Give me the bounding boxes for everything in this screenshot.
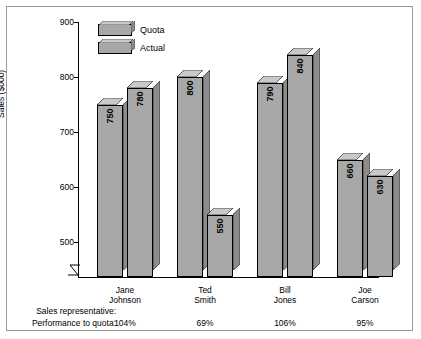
category-line1: Joe xyxy=(330,285,400,295)
y-tick-mark-700 xyxy=(74,132,78,133)
bar-quota-joe: 660 xyxy=(337,160,363,278)
y-tick-500: 500 xyxy=(44,238,74,247)
bar-value-label: 790 xyxy=(265,86,275,101)
category-line2: Smith xyxy=(170,295,240,305)
category-line1: Bill xyxy=(250,285,320,295)
category-line2: Carson xyxy=(330,295,400,305)
category-label-ted: Ted Smith xyxy=(170,285,240,305)
legend-item-actual: Actual xyxy=(98,42,165,54)
legend-swatch-side xyxy=(131,21,135,33)
bar-face xyxy=(177,77,203,277)
legend-item-quota: Quota xyxy=(98,24,165,36)
x-axis-line xyxy=(78,277,379,278)
bar-value-label: 780 xyxy=(135,91,145,106)
chart-page: Sales ($000) 900 800 700 600 500 Quota xyxy=(0,0,421,339)
y-tick-mark-800 xyxy=(74,77,78,78)
category-label-joe: Joe Carson xyxy=(330,285,400,305)
y-tick-mark-500 xyxy=(74,242,78,243)
legend-label-quota: Quota xyxy=(140,25,165,35)
bar-actual-bill: 840 xyxy=(287,55,313,277)
chart-legend: Quota Actual xyxy=(98,24,165,60)
y-tick-600: 600 xyxy=(44,183,74,192)
bar-side xyxy=(393,169,400,270)
bar-value-label: 630 xyxy=(375,179,385,194)
category-label-bill: Bill Jones xyxy=(250,285,320,305)
category-line2: Johnson xyxy=(90,295,160,305)
bar-side xyxy=(153,81,160,270)
bar-value-label: 660 xyxy=(345,163,355,178)
y-tick-900: 900 xyxy=(44,18,74,27)
bar-top xyxy=(177,70,203,77)
bar-top xyxy=(257,76,283,83)
performance-value-jane: 104% xyxy=(90,318,160,328)
category-line1: Jane xyxy=(90,285,160,295)
bar-face xyxy=(257,83,283,278)
category-label-jane: Jane Johnson xyxy=(90,285,160,305)
y-axis-title: Sales ($000) xyxy=(0,70,6,118)
bar-side xyxy=(313,48,320,270)
category-line1: Ted xyxy=(170,285,240,295)
bar-top xyxy=(207,208,233,215)
bar-top xyxy=(97,98,123,105)
bar-face xyxy=(127,88,153,277)
legend-swatch-top xyxy=(99,21,133,25)
bar-value-label: 750 xyxy=(105,108,115,123)
bar-face xyxy=(287,55,313,277)
bar-actual-joe: 630 xyxy=(367,176,393,277)
y-tick-800: 800 xyxy=(44,73,74,82)
bar-top xyxy=(127,81,153,88)
legend-swatch-side xyxy=(131,39,135,51)
bar-value-label: 800 xyxy=(185,80,195,95)
y-axis-line xyxy=(78,22,79,277)
bar-top xyxy=(337,153,363,160)
y-tick-700: 700 xyxy=(44,128,74,137)
y-tick-mark-900 xyxy=(74,22,78,23)
y-tick-mark-600 xyxy=(74,187,78,188)
legend-swatch-quota xyxy=(98,24,132,36)
bar-value-label: 550 xyxy=(215,218,225,233)
performance-value-bill: 106% xyxy=(250,318,320,328)
bar-quota-jane: 750 xyxy=(97,105,123,278)
bar-face xyxy=(97,105,123,278)
bar-side xyxy=(233,208,240,271)
performance-value-ted: 69% xyxy=(170,318,240,328)
category-line2: Jones xyxy=(250,295,320,305)
bar-actual-ted: 550 xyxy=(207,215,233,278)
bar-actual-jane: 780 xyxy=(127,88,153,277)
bar-top xyxy=(367,169,393,176)
bar-value-label: 840 xyxy=(295,58,305,73)
performance-value-joe: 95% xyxy=(330,318,400,328)
legend-swatch-top xyxy=(99,39,133,43)
axis-break-icon xyxy=(66,255,88,277)
bar-quota-bill: 790 xyxy=(257,83,283,278)
legend-label-actual: Actual xyxy=(140,43,165,53)
row-label-sales-representative: Sales representative: xyxy=(10,306,116,316)
bar-quota-ted: 800 xyxy=(177,77,203,277)
bar-top xyxy=(287,48,313,55)
legend-swatch-actual xyxy=(98,42,132,54)
